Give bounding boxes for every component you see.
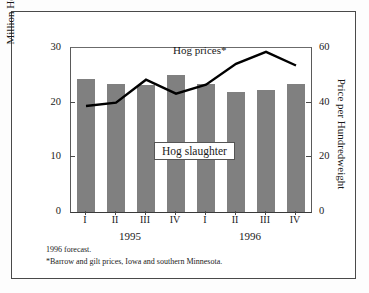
line-series-layer xyxy=(71,48,311,212)
x-axis-tickmark-1 xyxy=(85,211,86,215)
left-axis-tick-20: 20 xyxy=(39,97,61,107)
x-axis-tickmark-4 xyxy=(175,211,176,215)
plot-area xyxy=(70,47,312,213)
x-axis-tickmark-3 xyxy=(145,211,146,215)
x-axis-tickmark-7 xyxy=(265,211,266,215)
x-axis-tick-6: II xyxy=(220,214,250,225)
x-axis-tick-8: IV xyxy=(280,214,310,225)
x-axis-tick-2: II xyxy=(100,214,130,225)
right-axis-tickmark-20 xyxy=(306,156,311,157)
x-axis-tickmark-5 xyxy=(205,211,206,215)
line-series-label: Hog prices* xyxy=(173,44,226,56)
x-axis-group-label-1995: 1995 xyxy=(100,230,160,242)
x-axis-tick-5: I xyxy=(190,214,220,225)
right-axis-tickmark-40 xyxy=(306,102,311,103)
x-axis-tickmark-8 xyxy=(295,211,296,215)
x-axis-tick-7: III xyxy=(250,214,280,225)
footnote-line-2: *Barrow and gilt prices, Iowa and southe… xyxy=(46,257,222,267)
left-axis-title: Million Head xyxy=(4,0,16,70)
x-axis-tick-3: III xyxy=(130,214,160,225)
x-axis-tick-1: I xyxy=(70,214,100,225)
right-axis-title: Price per Hundredweight xyxy=(336,59,348,209)
x-axis-tick-4: IV xyxy=(160,214,190,225)
hog-prices-line xyxy=(86,52,296,106)
left-axis-tickmark-10 xyxy=(70,156,75,157)
bar-series-label: Hog slaughter xyxy=(154,142,235,160)
right-axis-tick-60: 60 xyxy=(319,42,341,52)
left-axis-tick-0: 0 xyxy=(39,206,61,216)
left-axis-tick-30: 30 xyxy=(39,42,61,52)
left-axis-tickmark-20 xyxy=(70,102,75,103)
figure-container: 0102030 0204060 IIIIIIIVIIIIIIIV19951996… xyxy=(0,0,369,293)
x-axis-tickmark-2 xyxy=(115,211,116,215)
x-axis-group-label-1996: 1996 xyxy=(220,230,280,242)
x-axis-tickmark-6 xyxy=(235,211,236,215)
footnote-line-1: 1996 forecast. xyxy=(46,245,91,255)
left-axis-tick-10: 10 xyxy=(39,151,61,161)
chart-outer-frame: 0102030 0204060 IIIIIIIVIIIIIIIV19951996… xyxy=(11,11,356,279)
